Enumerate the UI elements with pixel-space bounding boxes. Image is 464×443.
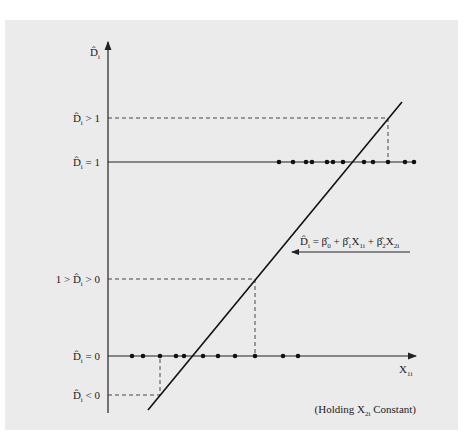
lpm-diagram: D̂i D̂i > 1 D̂i = 1 1 > D̂i > 0 D̂i = 0 … [0,0,464,443]
label-d-eq-1: D̂i = 1 [73,156,100,171]
equation-label: D̂i = β̂0 + β̂1X1i + β̂2X2i [300,235,399,250]
label-d-between: 1 > D̂i > 0 [56,273,101,288]
label-d-eq-0: D̂i = 0 [73,350,101,365]
dashed-guides [108,118,388,395]
label-d-gt-1: D̂i > 1 [73,112,100,127]
x-axis-label: X1i [399,363,412,378]
holding-note: (Holding X2i Constant) [315,403,417,418]
y-axis-label: D̂i [90,46,100,61]
regression-line [148,102,402,410]
label-d-lt-0: D̂i < 0 [73,389,101,404]
